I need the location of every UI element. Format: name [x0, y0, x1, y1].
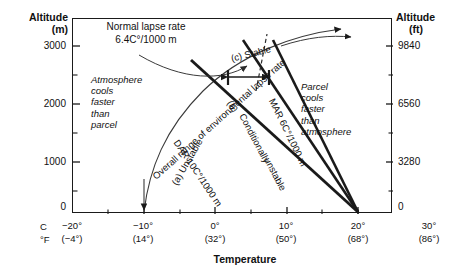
plot-area: Normal lapse rate 6.4C°/1000 m Atmospher…: [72, 18, 392, 213]
stable-region-arrow: [281, 36, 351, 46]
x-tick-c-10: 10°: [259, 221, 313, 232]
x-minor-ticks: [108, 210, 358, 215]
y-right-tick-9840: 9840: [398, 40, 448, 51]
x-tick-c-minus10: −10°: [116, 221, 170, 232]
y-right-tick-0: 0: [398, 201, 448, 212]
normal-lapse-rate-label-line1: Normal lapse rate: [81, 21, 211, 33]
normal-lapse-rate-label-line2: 6.4C°/1000 m: [81, 34, 211, 46]
note-parcel-cools-faster: Parcel cools faster than atmosphere: [301, 81, 393, 137]
x-tick-f-86: (86°): [402, 234, 450, 245]
y-right-tick-3280: 3280: [398, 156, 448, 167]
x-tick-c-20: 20°: [331, 221, 385, 232]
x-axis-title: Temperature: [175, 254, 315, 266]
x-tick-c-30: 30°: [402, 221, 450, 232]
x-tick-f-minus4: (−4°): [45, 234, 99, 245]
y-left-minor-ticks: [73, 75, 78, 191]
y-axis-left-title: Altitude: [0, 12, 68, 24]
y-axis-left-unit: (m): [0, 24, 68, 36]
x-tick-f-14: (14°): [116, 234, 170, 245]
y-left-major-ticks: [73, 46, 80, 162]
y-axis-right-title: Altitude: [396, 12, 450, 24]
note-atmosphere-cools-faster: Atmosphere cools faster than parcel: [91, 74, 175, 130]
y-left-tick-2000: 2000: [0, 98, 66, 109]
x-tick-c-0: 0°: [188, 221, 242, 232]
figure-root: Altitude (m) 3000 2000 1000 0 Altitude (…: [0, 0, 450, 279]
x-tick-c-minus20: −20°: [45, 221, 99, 232]
y-left-tick-3000: 3000: [0, 40, 66, 51]
x-tick-f-68: (68°): [331, 234, 385, 245]
y-axis-right-unit: (ft): [396, 24, 436, 36]
x-tick-f-50: (50°): [259, 234, 313, 245]
y-right-tick-6560: 6560: [398, 98, 448, 109]
y-left-tick-0: 0: [0, 201, 66, 212]
x-tick-f-32: (32°): [188, 234, 242, 245]
y-left-tick-1000: 1000: [0, 156, 66, 167]
